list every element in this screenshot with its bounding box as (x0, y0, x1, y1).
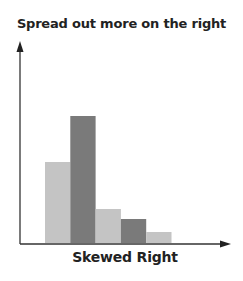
bar-3 (96, 209, 121, 243)
bar-2 (70, 116, 95, 243)
x-axis-arrow-icon (220, 241, 231, 248)
bar-1 (45, 162, 70, 243)
bar-4 (121, 219, 146, 243)
bar-5 (146, 232, 171, 243)
x-axis-label: Skewed Right (60, 249, 190, 265)
bar-chart (0, 0, 243, 281)
y-axis-arrow-icon (17, 41, 24, 52)
bars-group (45, 116, 172, 243)
